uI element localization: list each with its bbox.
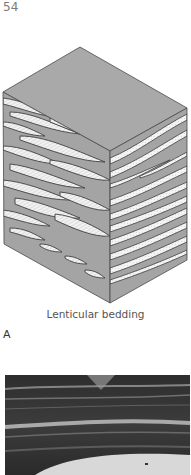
core-photograph (5, 375, 190, 475)
figure-caption: Lenticular bedding (0, 308, 191, 320)
core-photo-image (5, 375, 190, 475)
block-diagram-figure (0, 40, 191, 310)
panel-label: A (3, 328, 11, 341)
page-number: 54 (3, 0, 18, 14)
lenticular-bedding-block-diagram (0, 40, 191, 310)
